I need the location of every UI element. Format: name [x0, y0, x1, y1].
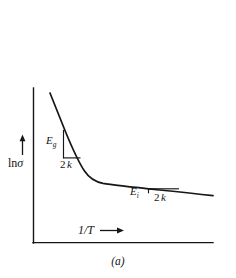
right-arrow-icon: [100, 227, 124, 233]
intrinsic-energy-symbol: E: [46, 134, 53, 146]
conductivity-plot: [0, 0, 236, 278]
up-arrow-icon: [20, 135, 26, 156]
y-axis-label: lnσ: [8, 157, 23, 169]
intrinsic-denominator-symbol: k: [67, 158, 72, 170]
extrinsic-denominator-symbol: k: [161, 191, 166, 203]
conductivity-curve: [50, 93, 213, 196]
x-axis-label: 1/T: [78, 224, 94, 236]
extrinsic-energy-symbol: E: [130, 185, 137, 197]
extrinsic-denominator-label: 2k: [154, 192, 166, 203]
figure-container: lnσ 1/T Eg 2k Ei 2k (a): [0, 0, 236, 278]
extrinsic-energy-label: Ei: [130, 186, 139, 197]
extrinsic-denominator-coefficient: 2: [154, 191, 160, 203]
intrinsic-energy-label: Eg: [46, 135, 56, 146]
intrinsic-denominator-coefficient: 2: [60, 158, 66, 170]
y-axis-label-symbol: σ: [17, 156, 23, 170]
figure-caption: (a): [0, 256, 236, 268]
y-axis-label-prefix: ln: [8, 156, 17, 170]
intrinsic-denominator-label: 2k: [60, 159, 72, 170]
intrinsic-energy-subscript: g: [53, 140, 57, 149]
extrinsic-energy-subscript: i: [137, 191, 139, 200]
